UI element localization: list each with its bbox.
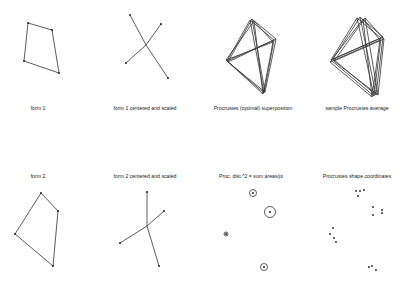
panel-label-procrustes_superposition: Procrustes (optimal) superposition xyxy=(214,106,293,111)
panel-proc_dist xyxy=(224,190,276,271)
figure-canvas xyxy=(0,0,403,281)
panel-shape_coordinates xyxy=(329,189,383,271)
panel-form2 xyxy=(14,192,59,267)
panel-label-form2: form 2 xyxy=(31,174,46,179)
panel-form1 xyxy=(23,22,60,74)
panel-procrustes_superposition xyxy=(226,19,276,94)
panel-label-form1: form 1 xyxy=(31,106,46,111)
panel-label-form1_centered: form 1 centered and scaled xyxy=(114,106,177,111)
panel-form2_centered xyxy=(119,191,165,267)
panel-procrustes_average xyxy=(330,17,384,97)
panel-label-procrustes_average: sample Procrustes average xyxy=(325,106,388,111)
panel-label-proc_dist: Proc. dist.^2 = sum areas/pi xyxy=(219,174,283,179)
panel-label-shape_coordinates: Procrustes shape coordinates xyxy=(323,174,392,179)
panel-form1_centered xyxy=(125,14,169,79)
panel-label-form2_centered: form 2 centered and scaled xyxy=(114,174,177,179)
